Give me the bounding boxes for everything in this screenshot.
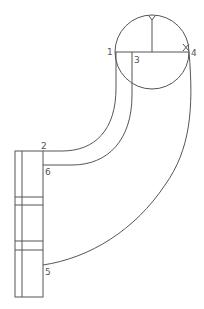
label-1: 1 bbox=[107, 47, 113, 57]
large-sweep-curve bbox=[43, 52, 191, 265]
label-4: 4 bbox=[191, 48, 197, 58]
label-5: 5 bbox=[45, 267, 51, 277]
label-2: 2 bbox=[41, 141, 47, 151]
label-3: 3 bbox=[134, 55, 140, 65]
label-6: 6 bbox=[45, 167, 51, 177]
diagram-canvas: 1 2 3 4 5 6 bbox=[0, 0, 204, 309]
outer-bend-curve bbox=[43, 52, 116, 151]
cross-mark-icon bbox=[183, 44, 189, 51]
vertical-column-rect bbox=[15, 151, 43, 297]
top-tick-mark-icon bbox=[149, 16, 155, 22]
